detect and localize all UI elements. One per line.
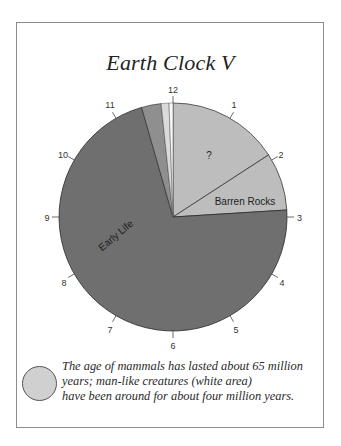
clock-number-6: 6: [170, 341, 175, 351]
legend-circle-icon: [22, 366, 57, 401]
label-unknown: ?: [206, 150, 212, 161]
label-barren-rocks: Barren Rocks: [215, 196, 276, 207]
figure-caption: The age of mammals has lasted about 65 m…: [62, 359, 332, 404]
caption-line-3: have been around for about four million …: [62, 389, 332, 404]
clock-number-9: 9: [44, 213, 49, 223]
clock-number-8: 8: [61, 278, 66, 288]
clock-number-3: 3: [297, 213, 302, 223]
clock-number-11: 11: [105, 100, 114, 110]
clock-number-5: 5: [233, 325, 238, 335]
clock-number-7: 7: [107, 325, 112, 335]
caption-line-1: The age of mammals has lasted about 65 m…: [62, 359, 332, 374]
clock-number-4: 4: [279, 278, 284, 288]
caption-line-2: years; man-like creatures (white area): [62, 374, 332, 389]
clock-number-10: 10: [58, 150, 68, 160]
clock-number-1: 1: [231, 100, 236, 110]
clock-number-12: 12: [168, 85, 178, 95]
clock-number-2: 2: [278, 150, 283, 160]
